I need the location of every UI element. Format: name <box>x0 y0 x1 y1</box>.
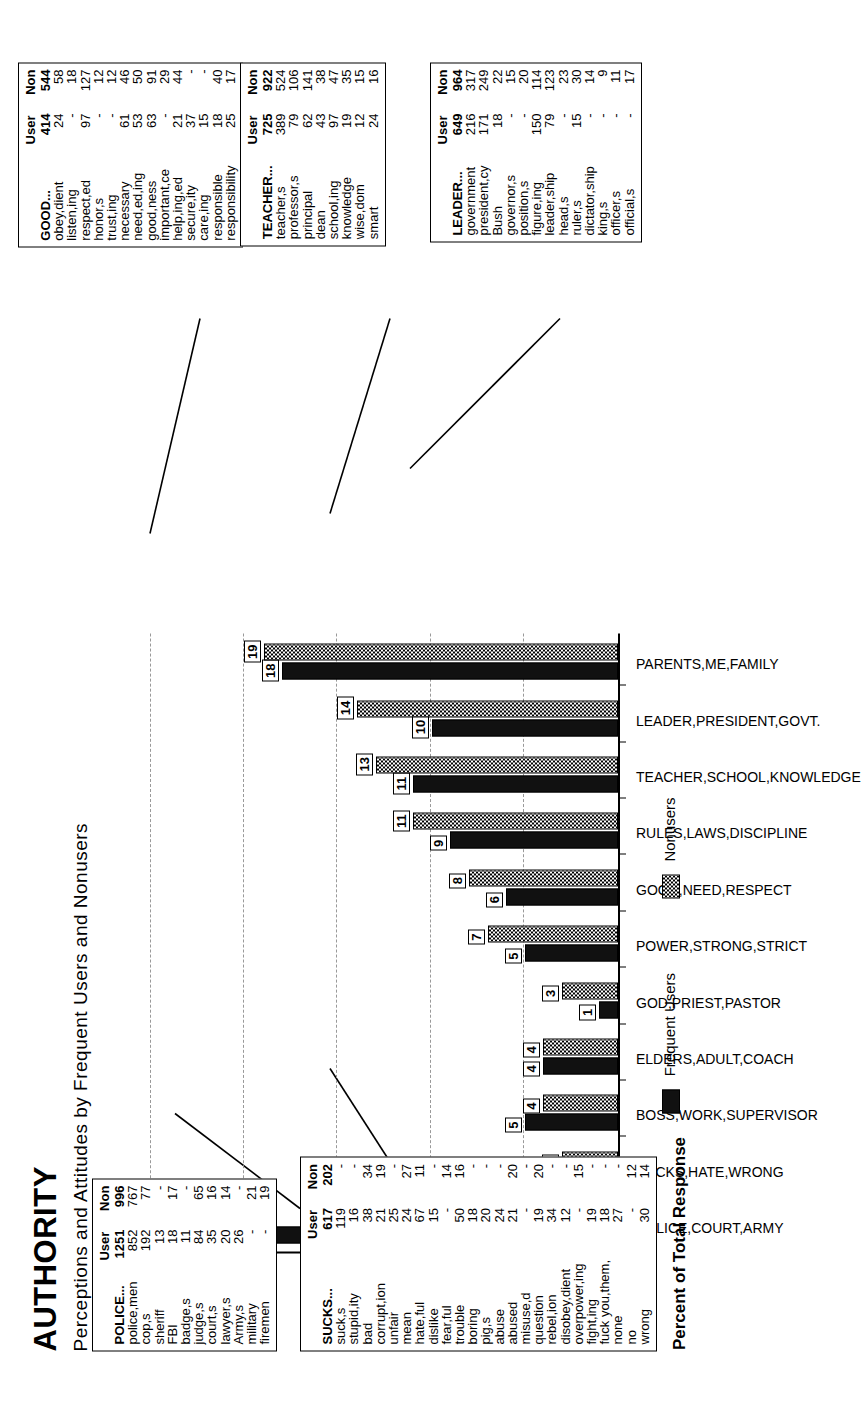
bar-group: 68 <box>152 860 618 904</box>
bar-group: 44 <box>152 1030 618 1074</box>
legend-label-nonusers: Nonusers <box>661 797 678 861</box>
table-row: officer,s-11 <box>609 69 622 235</box>
table-row: abuse24- <box>493 1163 506 1344</box>
table-row: president,cy171249 <box>477 69 490 235</box>
table-row: official,s-17 <box>623 69 636 235</box>
row-user-count: 24 <box>367 113 380 157</box>
row-non-count: 127 <box>79 69 92 113</box>
x-tick <box>618 853 626 854</box>
row-user-count: - <box>609 113 622 157</box>
bar-frequent-users <box>432 719 618 736</box>
column-header-non: Non <box>435 69 450 115</box>
row-user-count: 67 <box>413 1207 426 1251</box>
x-tick <box>618 684 626 685</box>
row-non-count: 23 <box>557 69 570 113</box>
table-header: UserNon <box>435 69 450 235</box>
x-tick <box>618 966 626 967</box>
row-user-count: - <box>245 1229 258 1273</box>
bar-value-label: 18 <box>262 659 279 681</box>
table-row: disobey,dient12- <box>559 1163 572 1344</box>
row-non-count: 123 <box>543 69 556 113</box>
row-non-count: - <box>466 1163 479 1207</box>
column-header-non: Non <box>305 1163 320 1209</box>
row-user-count: 79 <box>287 113 300 157</box>
row-label: leader,ship <box>543 157 556 235</box>
row-label: sheriff <box>153 1273 166 1344</box>
bar-value-label: 10 <box>412 715 429 737</box>
row-non-count: 202 <box>321 1163 334 1207</box>
row-non-count: 44 <box>171 69 184 113</box>
row-label: listen,ing <box>65 157 78 240</box>
row-non-count: 18 <box>65 69 78 113</box>
row-user-count: 26 <box>232 1229 245 1273</box>
table-row: pig,s20- <box>479 1163 492 1344</box>
bar-group: 911 <box>152 804 618 848</box>
row-user-count: 18 <box>491 113 504 157</box>
row-non-count: 40 <box>211 69 224 113</box>
row-user-count: 12 <box>353 113 366 157</box>
row-non-count: 14 <box>219 1185 232 1229</box>
bar-group: 1014 <box>152 691 618 735</box>
table-row: leader,ship79123 <box>543 69 556 235</box>
callout-table-sucks: UserNonSUCKS...617202suck,s119-stupid,it… <box>300 1156 657 1351</box>
row-user-count: 27 <box>611 1207 624 1251</box>
row-non-count: 20 <box>506 1163 519 1207</box>
row-user-count: - <box>623 113 636 157</box>
row-non-count: - <box>559 1163 572 1207</box>
page-subtitle: Perceptions and Attitudes by Frequent Us… <box>70 822 92 1351</box>
table-row: respect,ed97127 <box>79 69 92 240</box>
row-user-count: - <box>557 113 570 157</box>
row-non-count: 106 <box>287 69 300 113</box>
row-label: dislike <box>427 1251 440 1344</box>
row-non-count: 17 <box>166 1185 179 1229</box>
row-label: smart <box>367 157 380 239</box>
table-header: UserNon <box>305 1163 320 1344</box>
bar-value-label: 6 <box>486 892 503 907</box>
table-row: Bush1822 <box>491 69 504 235</box>
bar-value-label: 1 <box>579 1004 596 1019</box>
row-non-count: 34 <box>361 1163 374 1207</box>
callout-data-table: GOOD...414544obey,dient2458listen,ing-18… <box>39 69 237 240</box>
row-user-count: 15 <box>570 113 583 157</box>
table-header: UserNon <box>245 69 260 239</box>
row-user-count: 79 <box>543 113 556 157</box>
row-user-count: 62 <box>301 113 314 157</box>
row-user-count: - <box>258 1229 271 1273</box>
column-header-user: User <box>245 115 260 161</box>
row-user-count: 38 <box>361 1207 374 1251</box>
table-row: dislike15- <box>427 1163 440 1344</box>
bar-value-label: 11 <box>393 772 410 794</box>
row-label: none <box>611 1251 624 1344</box>
row-label: Bush <box>491 157 504 235</box>
row-user-count: 25 <box>224 113 237 157</box>
callout-data-table: POLICE...1251996police,men852767cop,s192… <box>113 1185 271 1344</box>
x-tick <box>618 797 626 798</box>
row-label: principal <box>301 157 314 239</box>
row-non-count: - <box>427 1163 440 1207</box>
bar-nonusers <box>376 756 618 773</box>
bar-value-label: 8 <box>449 873 466 888</box>
row-non-count: - <box>479 1163 492 1207</box>
bar-value-label: 7 <box>468 929 485 944</box>
row-non-count: 19 <box>374 1163 387 1207</box>
row-label: no <box>625 1251 638 1344</box>
category-label: PARENTS,ME,FAMILY <box>636 655 779 671</box>
table-row: none27- <box>611 1163 624 1344</box>
row-user-count: 20 <box>219 1229 232 1273</box>
category-label: GOD,PRIEST,PASTOR <box>636 994 781 1010</box>
row-user-count: 15 <box>427 1207 440 1251</box>
table-row: sheriff13- <box>153 1185 166 1344</box>
table-row: cop,s19277 <box>139 1185 152 1344</box>
row-non-count: 12 <box>625 1163 638 1207</box>
x-tick <box>618 1135 626 1136</box>
row-label: responsible <box>211 157 224 240</box>
row-label: wise,dom <box>353 157 366 239</box>
row-label: stupid,ity <box>347 1251 360 1344</box>
table-row: good,ness6391 <box>145 69 158 240</box>
row-label: cop,s <box>139 1273 152 1344</box>
table-row: no-12 <box>625 1163 638 1344</box>
row-label: responsibility <box>224 157 237 240</box>
table-row: listen,ing-18 <box>65 69 78 240</box>
